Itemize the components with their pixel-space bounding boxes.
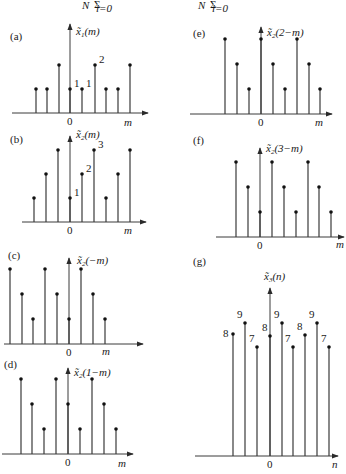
value-annotation: 1 <box>74 186 80 198</box>
stem-marker <box>116 87 120 91</box>
value-annotation: 9 <box>309 308 315 320</box>
stem-marker <box>303 333 307 337</box>
stem-marker <box>57 63 61 67</box>
stem-marker <box>268 334 272 338</box>
stem-marker <box>44 172 48 176</box>
stem-marker <box>128 148 132 152</box>
stem-marker <box>30 402 34 406</box>
panel-e: (e)x̃2(2−m)0m <box>190 26 332 128</box>
value-annotation: 8 <box>297 320 303 332</box>
value-annotation: 8 <box>223 327 229 339</box>
stem-marker <box>19 377 23 381</box>
stem-marker <box>80 172 84 176</box>
panel-label: (d) <box>4 358 17 371</box>
stem-marker <box>31 317 35 321</box>
origin-label: 0 <box>67 224 73 236</box>
stem-marker <box>20 292 24 296</box>
value-annotation: 7 <box>321 332 327 344</box>
stem-marker <box>306 160 310 164</box>
stem-marker <box>307 62 311 66</box>
origin-label: 0 <box>67 115 73 127</box>
stem-marker <box>45 87 49 91</box>
value-annotation: 3 <box>98 138 104 150</box>
stem-marker <box>102 402 106 406</box>
stem-marker <box>116 172 120 176</box>
stem-marker <box>80 87 84 91</box>
value-annotation: 9 <box>274 308 280 320</box>
value-annotation: 1 <box>74 77 80 89</box>
origin-label: 0 <box>257 239 263 251</box>
value-annotation: 7 <box>285 332 291 344</box>
stem-marker <box>291 345 295 349</box>
svg-text:l=0: l=0 <box>212 2 228 14</box>
stem-marker <box>317 185 321 189</box>
stem-marker <box>56 148 60 152</box>
stem-marker <box>231 332 235 336</box>
stem-marker <box>283 87 287 91</box>
stem-marker <box>258 210 262 214</box>
stem-marker <box>271 62 275 66</box>
stem-marker <box>54 377 58 381</box>
stem-marker <box>8 267 12 271</box>
svg-text:N: N <box>81 0 90 11</box>
stem-marker <box>246 185 250 189</box>
series-title: x̃2(m) <box>75 128 100 142</box>
origin-label: 0 <box>66 346 72 358</box>
stem-marker <box>67 317 71 321</box>
stem-marker <box>259 37 263 41</box>
panel-label: (c) <box>8 249 21 262</box>
stem-marker <box>55 292 59 296</box>
stem-marker <box>318 87 322 91</box>
stem-marker <box>103 317 107 321</box>
stem-marker <box>223 37 227 41</box>
stem-marker <box>92 148 96 152</box>
stem-marker <box>329 210 333 214</box>
stem-marker <box>79 267 83 271</box>
stem-marker <box>68 87 72 91</box>
stem-marker <box>104 87 108 91</box>
stem-marker <box>93 63 97 67</box>
stem-plot-figure: N Σ l=0 N Σ l=0 (a)x̃1(m)0m112(b)x̃2(m)0… <box>0 0 346 474</box>
x-axis-label: m <box>124 116 132 128</box>
stem-marker <box>294 210 298 214</box>
stem-marker <box>68 196 72 200</box>
value-annotation: 9 <box>237 308 243 320</box>
header-formula: N Σ l=0 N Σ l=0 <box>81 0 228 14</box>
stem-marker <box>234 160 238 164</box>
panel-f: (f)x̃2(3−m)0m <box>193 134 344 251</box>
value-annotation: 7 <box>249 332 255 344</box>
stem-marker <box>315 321 319 325</box>
value-annotation: 2 <box>99 53 105 65</box>
series-title: x̃2(−m) <box>76 254 108 268</box>
stem-marker <box>270 160 274 164</box>
stem-marker <box>78 427 82 431</box>
origin-label: 0 <box>65 456 71 468</box>
value-annotation: 8 <box>262 321 268 333</box>
panel-b: (b)x̃2(m)0m123 <box>10 128 146 236</box>
origin-label: 0 <box>258 116 264 128</box>
value-annotation: 2 <box>86 162 92 174</box>
x-axis-label: n <box>332 458 338 470</box>
panel-label: (g) <box>193 255 206 268</box>
stem-marker <box>282 185 286 189</box>
stem-marker <box>327 345 331 349</box>
x-axis-label: m <box>118 457 126 469</box>
panel-label: (f) <box>193 134 204 147</box>
stem-marker <box>42 427 46 431</box>
panel-d: (d)x̃2(1−m)0m <box>2 358 133 469</box>
stem-marker <box>104 196 108 200</box>
stem-marker <box>34 87 38 91</box>
panel-a: (a)x̃1(m)0m112 <box>10 24 148 128</box>
panel-label: (b) <box>10 133 23 146</box>
x-axis-label: m <box>315 116 323 128</box>
panel-g: (g)x̃3(n)0n897897897 <box>193 255 338 470</box>
x-axis-label: m <box>336 238 344 250</box>
series-title: x̃1(m) <box>75 25 100 39</box>
stem-marker <box>243 321 247 325</box>
origin-label: 0 <box>267 458 273 470</box>
svg-text:N: N <box>197 0 206 11</box>
stem-marker <box>90 377 94 381</box>
series-title: x̃3(n) <box>263 270 286 284</box>
panel-label: (e) <box>193 27 206 40</box>
svg-text:l=0: l=0 <box>96 2 112 14</box>
